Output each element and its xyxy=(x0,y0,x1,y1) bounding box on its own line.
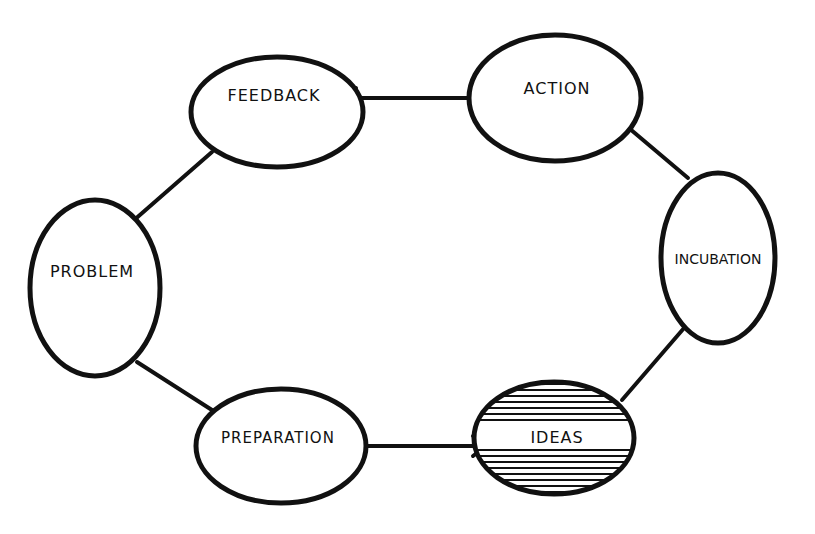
creative-cycle-diagram: FEEDBACK ACTION INCUBATION IDEAS PREPARA… xyxy=(0,0,815,534)
node-preparation: PREPARATION xyxy=(196,389,366,503)
node-problem: PROBLEM xyxy=(30,200,160,376)
node-label-incubation: INCUBATION xyxy=(675,251,762,267)
node-label-problem: PROBLEM xyxy=(50,262,134,281)
node-ideas: IDEAS xyxy=(470,382,640,494)
node-label-feedback: FEEDBACK xyxy=(227,86,320,105)
node-label-action: ACTION xyxy=(524,79,591,98)
node-label-preparation: PREPARATION xyxy=(221,429,335,447)
node-action: ACTION xyxy=(469,35,641,161)
node-label-ideas: IDEAS xyxy=(530,428,583,447)
node-incubation: INCUBATION xyxy=(661,173,775,343)
node-feedback: FEEDBACK xyxy=(191,57,363,167)
edge-preparation-to-ideas xyxy=(367,436,486,456)
